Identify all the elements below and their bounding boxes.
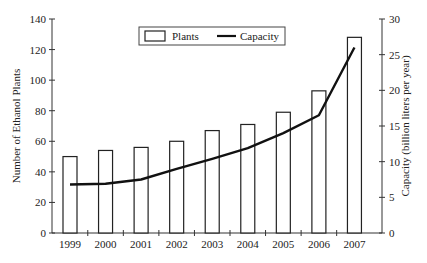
plants-bar bbox=[170, 141, 184, 233]
x-tick-label: 2005 bbox=[272, 238, 295, 250]
right-tick-label: 5 bbox=[389, 191, 395, 203]
plants-bar bbox=[205, 131, 219, 233]
right-tick-label: 30 bbox=[389, 13, 401, 25]
x-tick-label: 2007 bbox=[343, 238, 366, 250]
legend: Plants Capacity bbox=[139, 27, 285, 45]
left-tick-label: 40 bbox=[35, 166, 47, 178]
x-tick-label: 1999 bbox=[59, 238, 82, 250]
plants-bar bbox=[312, 91, 326, 233]
left-axis-label: Number of Ethanol Plants bbox=[10, 69, 22, 184]
x-tick-label: 2006 bbox=[308, 238, 331, 250]
x-tick-label: 2001 bbox=[130, 238, 152, 250]
plants-bar bbox=[134, 147, 148, 233]
x-tick-label: 2003 bbox=[201, 238, 224, 250]
plants-bar bbox=[241, 124, 255, 233]
plants-bar bbox=[347, 37, 361, 233]
right-tick-label: 0 bbox=[389, 227, 395, 239]
plants-legend-swatch bbox=[145, 31, 165, 41]
plants-bar bbox=[63, 157, 77, 233]
right-y-axis: 051015202530 bbox=[379, 13, 401, 239]
right-axis-label: Capacity (billion liters per year) bbox=[399, 55, 412, 196]
x-tick-label: 2004 bbox=[237, 238, 260, 250]
plants-bars bbox=[63, 37, 361, 233]
legend-plants-label: Plants bbox=[172, 30, 199, 42]
left-tick-label: 0 bbox=[41, 227, 47, 239]
plants-bar bbox=[99, 150, 113, 233]
chart: 020406080100120140 051015202530 19992000… bbox=[0, 0, 427, 263]
left-y-axis: 020406080100120140 bbox=[30, 13, 56, 239]
left-tick-label: 60 bbox=[35, 135, 47, 147]
left-tick-label: 80 bbox=[35, 105, 47, 117]
left-tick-label: 140 bbox=[30, 13, 47, 25]
left-tick-label: 100 bbox=[30, 74, 47, 86]
x-tick-label: 2002 bbox=[166, 238, 188, 250]
left-tick-label: 120 bbox=[30, 44, 47, 56]
left-tick-label: 20 bbox=[35, 196, 47, 208]
legend-capacity-label: Capacity bbox=[240, 30, 280, 42]
x-tick-label: 2000 bbox=[95, 238, 118, 250]
